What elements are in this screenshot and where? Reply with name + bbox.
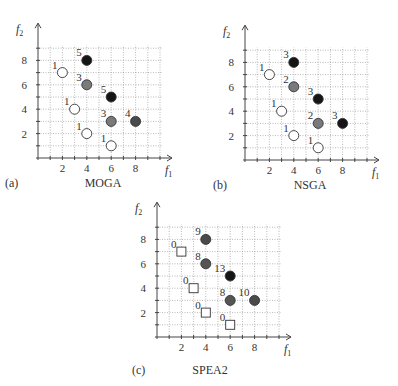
point-label: 10 bbox=[239, 286, 251, 298]
panel-tag: (a) bbox=[5, 176, 18, 190]
point-label: 2 bbox=[308, 109, 314, 121]
x-tick-label: 2 bbox=[267, 164, 273, 176]
y-tick-label: 6 bbox=[22, 79, 28, 91]
chart-figure: 24682468f1f2111153534(a)MOGA24682468f1f2… bbox=[0, 0, 398, 386]
y-tick-label: 2 bbox=[229, 130, 235, 142]
data-point bbox=[225, 295, 235, 305]
panel-c: 24682468f1f200009813810(c)SPEA2 bbox=[132, 201, 291, 377]
y-tick-label: 4 bbox=[141, 282, 147, 294]
data-point bbox=[57, 68, 67, 78]
panel-tag: (b) bbox=[213, 178, 227, 192]
x-axis-label: f1 bbox=[372, 165, 379, 181]
data-point bbox=[250, 295, 260, 305]
panel-title: NSGA bbox=[294, 178, 327, 192]
x-tick-label: 8 bbox=[252, 341, 258, 353]
point-label: 1 bbox=[283, 122, 289, 134]
point-label: 5 bbox=[101, 83, 107, 95]
point-label: 1 bbox=[76, 120, 82, 132]
x-tick-label: 2 bbox=[60, 162, 66, 174]
point-label: 13 bbox=[214, 262, 226, 274]
data-point bbox=[177, 247, 186, 256]
data-point bbox=[313, 118, 323, 128]
y-axis-label: f2 bbox=[135, 201, 142, 217]
y-tick-label: 6 bbox=[229, 81, 235, 93]
data-point bbox=[313, 94, 323, 104]
point-label: 0 bbox=[171, 238, 177, 250]
data-point bbox=[82, 129, 92, 139]
data-point bbox=[277, 106, 287, 116]
data-point bbox=[313, 143, 323, 153]
y-tick-label: 4 bbox=[22, 103, 28, 115]
panel-tag: (c) bbox=[132, 363, 145, 377]
point-label: 1 bbox=[271, 97, 277, 109]
data-point bbox=[289, 131, 299, 141]
panel-b: 24682468f1f2111132323(b)NSGA bbox=[213, 24, 379, 192]
panel-a: 24682468f1f2111153534(a)MOGA bbox=[5, 22, 172, 190]
y-tick-label: 4 bbox=[229, 105, 235, 117]
x-tick-label: 4 bbox=[84, 162, 90, 174]
data-point bbox=[131, 116, 141, 126]
data-point bbox=[189, 284, 198, 293]
point-label: 5 bbox=[76, 46, 82, 58]
data-point bbox=[201, 234, 211, 244]
point-label: 3 bbox=[283, 48, 289, 60]
data-point bbox=[264, 70, 274, 80]
x-tick-label: 6 bbox=[315, 164, 321, 176]
point-label: 3 bbox=[332, 109, 338, 121]
point-label: 1 bbox=[64, 95, 70, 107]
y-tick-label: 8 bbox=[22, 54, 28, 66]
point-label: 0 bbox=[220, 311, 226, 323]
point-label: 4 bbox=[125, 107, 131, 119]
data-point bbox=[201, 259, 211, 269]
data-point bbox=[106, 92, 116, 102]
data-point bbox=[82, 55, 92, 65]
data-point bbox=[338, 118, 348, 128]
data-point bbox=[289, 82, 299, 92]
point-label: 3 bbox=[308, 85, 314, 97]
point-label: 8 bbox=[195, 250, 201, 262]
point-label: 1 bbox=[101, 132, 107, 144]
x-tick-label: 4 bbox=[291, 164, 297, 176]
point-label: 8 bbox=[220, 286, 226, 298]
panel-title: SPEA2 bbox=[192, 363, 227, 377]
data-point bbox=[82, 80, 92, 90]
x-tick-label: 6 bbox=[227, 341, 233, 353]
panel-title: MOGA bbox=[85, 176, 122, 190]
y-tick-label: 2 bbox=[141, 307, 147, 319]
x-tick-label: 8 bbox=[133, 162, 139, 174]
data-point bbox=[289, 57, 299, 67]
y-axis-label: f2 bbox=[223, 24, 230, 40]
point-label: 3 bbox=[101, 107, 107, 119]
x-tick-label: 6 bbox=[108, 162, 114, 174]
data-point bbox=[106, 141, 116, 151]
point-label: 0 bbox=[183, 274, 189, 286]
point-label: 1 bbox=[259, 61, 265, 73]
data-point bbox=[106, 116, 116, 126]
y-axis-label: f2 bbox=[16, 22, 23, 38]
y-tick-label: 2 bbox=[22, 128, 28, 140]
data-point bbox=[226, 320, 235, 329]
data-point bbox=[201, 308, 210, 317]
point-label: 9 bbox=[195, 225, 201, 237]
y-tick-label: 6 bbox=[141, 258, 147, 270]
point-label: 2 bbox=[283, 73, 289, 85]
y-tick-label: 8 bbox=[141, 233, 147, 245]
x-tick-label: 4 bbox=[203, 341, 209, 353]
point-label: 3 bbox=[76, 71, 82, 83]
data-point bbox=[70, 104, 80, 114]
x-tick-label: 8 bbox=[340, 164, 346, 176]
data-point bbox=[225, 271, 235, 281]
point-label: 0 bbox=[195, 299, 201, 311]
x-axis-label: f1 bbox=[284, 342, 291, 358]
x-axis-label: f1 bbox=[165, 163, 172, 179]
point-label: 1 bbox=[308, 134, 314, 146]
point-label: 1 bbox=[52, 59, 58, 71]
x-tick-label: 2 bbox=[179, 341, 185, 353]
y-tick-label: 8 bbox=[229, 56, 235, 68]
